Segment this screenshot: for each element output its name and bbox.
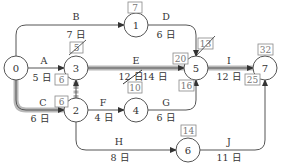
activity-H-arrow [76,122,176,150]
node-5-label: 5 [193,63,199,74]
activity-H-duration: 8 日 [110,152,129,163]
activity-B-duration: 7 日 [66,29,85,40]
box-text-node-4: 10 [129,83,141,93]
activity-C-name: C [39,97,46,108]
activity-E-name: E [133,55,140,66]
node-2-label: 2 [73,105,79,116]
activity-I-duration: 12 日 [216,71,241,82]
node-7-label: 7 [262,63,268,74]
box-text-node-5-below: 16 [181,81,193,91]
node-3-label: 3 [73,63,79,74]
activity-F-duration: 4 日 [94,112,113,123]
box-text-node-7-bottom: 25 [247,75,259,85]
activity-J-name: J [226,136,231,147]
box-text-activity-C: 6 [59,97,65,107]
node-0-label: 0 [13,63,19,74]
activity-A-name: A [40,55,48,66]
activity-H-name: H [115,136,123,147]
activity-J-duration: 11 日 [216,152,241,163]
activity-B-name: B [73,11,80,22]
activity-E-duration-corrected: 14 日 [142,71,167,82]
activity-I-name: I [227,55,231,66]
node-6-label: 6 [185,145,191,156]
activity-E-duration-original: 12 日 [118,71,143,82]
box-text-node-7: 32 [260,45,271,55]
node-1-label: 1 [133,20,139,31]
box-text-node-5-struck: 13 [200,39,212,49]
activity-F-name: F [100,97,107,108]
activity-D-name: D [162,11,170,22]
node-4-label: 4 [133,105,139,116]
activity-J-arrow [200,80,265,150]
activity-G-name: G [162,97,170,108]
activity-G-duration: 6 日 [156,112,175,123]
network-diagram: 0 1 3 5 7 2 4 6 B 7 日 A 5 日 C 6 日 D 6 日 … [0,0,281,165]
box-text-node-5-left: 20 [175,54,187,64]
activity-D-duration: 6 日 [156,29,175,40]
box-text-activity-A: 6 [59,75,65,85]
box-text-node-1: 7 [132,3,138,13]
box-text-node-6: 14 [183,126,195,136]
activity-A-duration: 5 日 [32,72,51,83]
activity-C-duration: 6 日 [30,113,49,124]
